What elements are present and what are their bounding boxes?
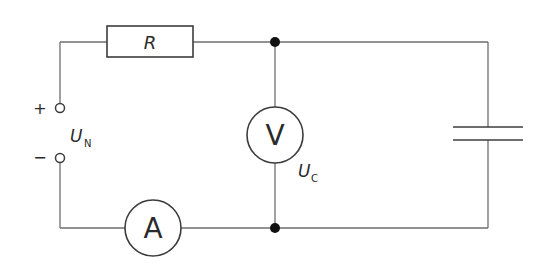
voltmeter-label: V (265, 119, 284, 152)
junction-top (270, 37, 280, 47)
source-voltage-label: U (70, 126, 83, 146)
terminal-positive (56, 104, 65, 113)
ammeter: A (125, 200, 181, 256)
minus-sign: − (33, 148, 46, 167)
junction-bottom (270, 223, 280, 233)
resistor: R (107, 26, 193, 57)
capacitor (453, 127, 523, 140)
voltmeter: V U C (247, 107, 318, 184)
voltmeter-quantity-label: U (298, 161, 311, 181)
plus-sign: + (33, 99, 46, 118)
circuit-diagram: R V U C A + − U N (0, 0, 553, 265)
voltmeter-quantity-subscript: C (311, 173, 318, 184)
source-terminals: + − U N (33, 99, 91, 167)
resistor-label: R (144, 32, 157, 53)
terminal-negative (56, 154, 65, 163)
source-voltage-subscript: N (84, 138, 91, 149)
ammeter-label: A (143, 212, 162, 245)
